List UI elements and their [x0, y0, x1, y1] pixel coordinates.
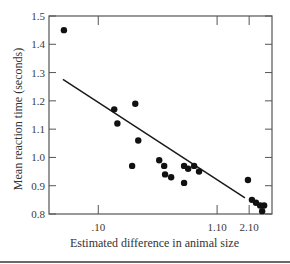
data-point: [135, 137, 141, 143]
data-point: [196, 168, 202, 174]
data-point: [61, 27, 67, 33]
regression-line: [63, 79, 245, 198]
x-tick-label: 2.10: [240, 221, 260, 233]
data-point: [181, 180, 187, 186]
data-point: [185, 166, 191, 172]
data-point: [261, 202, 267, 208]
x-tick-label: .10: [91, 221, 105, 233]
data-point: [161, 163, 167, 169]
data-point: [156, 157, 162, 163]
y-tick-label: 1.4: [31, 38, 45, 50]
y-axis-title: Mean reaction time (seconds): [11, 48, 25, 190]
data-point: [132, 100, 138, 106]
bottom-rule: [0, 261, 290, 263]
data-point: [111, 106, 117, 112]
y-tick-label: 1.0: [31, 151, 45, 163]
data-point: [162, 171, 168, 177]
y-tick-label: 1.2: [31, 95, 45, 107]
plot-frame: [49, 16, 272, 214]
data-point: [245, 177, 251, 183]
data-point: [114, 120, 120, 126]
x-tick-label: 1.10: [207, 221, 227, 233]
data-point: [129, 163, 135, 169]
data-point: [168, 174, 174, 180]
data-point: [191, 163, 197, 169]
y-tick-label: 0.9: [31, 180, 45, 192]
scatter-chart: 0.80.91.01.11.21.31.41.5.101.102.10 Esti…: [0, 0, 290, 264]
data-point: [259, 208, 265, 214]
y-tick-label: 1.5: [31, 10, 45, 22]
y-tick-label: 1.1: [31, 123, 45, 135]
y-tick-label: 1.3: [31, 67, 45, 79]
x-axis-title: Estimated difference in animal size: [70, 236, 239, 250]
y-tick-label: 0.8: [31, 208, 45, 220]
